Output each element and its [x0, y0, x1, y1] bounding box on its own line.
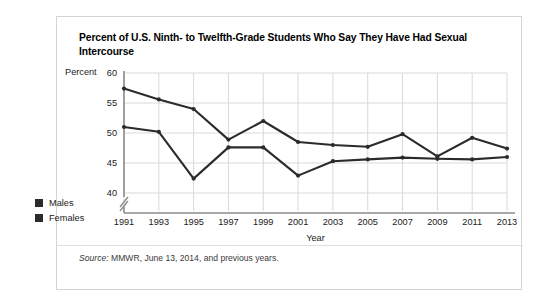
data-point-females-2001 — [296, 174, 300, 178]
x-tick-label: 2011 — [462, 217, 482, 227]
source-note: Source: MMWR, June 13, 2014, and previou… — [79, 253, 279, 263]
legend-swatch-females — [35, 214, 43, 222]
y-tick-label: 50 — [107, 128, 117, 138]
data-point-females-1997 — [226, 145, 230, 149]
x-tick-label: 1991 — [114, 217, 134, 227]
x-tick-label: 1995 — [183, 217, 203, 227]
data-point-males-1999 — [261, 119, 265, 123]
x-tick-label: 1999 — [253, 217, 273, 227]
x-tick-label: 1993 — [149, 217, 169, 227]
data-point-females-2007 — [400, 156, 404, 160]
data-point-males-2013 — [505, 147, 509, 151]
data-point-males-1993 — [157, 97, 161, 101]
y-tick-label: 40 — [107, 188, 117, 198]
data-point-males-1997 — [226, 138, 230, 142]
data-point-males-1995 — [192, 107, 196, 111]
data-point-females-2009 — [435, 157, 439, 161]
x-axis-title: Year — [306, 233, 325, 243]
data-point-females-1995 — [192, 177, 196, 181]
figure-panel: Percent of U.S. Ninth- to Twelfth-Grade … — [56, 16, 522, 290]
y-tick-label: 55 — [107, 98, 117, 108]
x-tick-label: 2005 — [358, 217, 378, 227]
data-point-females-1991 — [122, 125, 126, 129]
y-tick-label: 60 — [107, 68, 117, 78]
data-point-males-2001 — [296, 140, 300, 144]
series-line-males — [124, 89, 507, 157]
data-point-males-2007 — [400, 132, 404, 136]
data-point-females-2013 — [505, 155, 509, 159]
data-point-females-2005 — [366, 157, 370, 161]
legend-swatch-males — [35, 199, 43, 207]
plot-area: 4045505560199119931995199719992001200320… — [57, 17, 523, 291]
source-text: MMWR, June 13, 2014, and previous years. — [109, 253, 279, 263]
x-tick-label: 2001 — [288, 217, 308, 227]
y-tick-label: 45 — [107, 158, 117, 168]
data-point-females-2003 — [331, 159, 335, 163]
x-tick-label: 2007 — [392, 217, 412, 227]
data-point-females-1999 — [261, 145, 265, 149]
x-tick-label: 2013 — [497, 217, 517, 227]
source-prefix: Source: — [79, 253, 109, 263]
data-point-males-2003 — [331, 143, 335, 147]
source-divider — [57, 245, 523, 246]
x-tick-label: 2003 — [323, 217, 343, 227]
x-tick-label: 2009 — [427, 217, 447, 227]
x-tick-label: 1997 — [218, 217, 238, 227]
data-point-males-2005 — [366, 145, 370, 149]
data-point-males-2011 — [470, 136, 474, 140]
data-point-females-1993 — [157, 130, 161, 134]
line-chart: 4045505560199119931995199719992001200320… — [57, 17, 523, 291]
data-point-males-1991 — [122, 87, 126, 91]
data-point-females-2011 — [470, 157, 474, 161]
series-line-females — [124, 127, 507, 179]
